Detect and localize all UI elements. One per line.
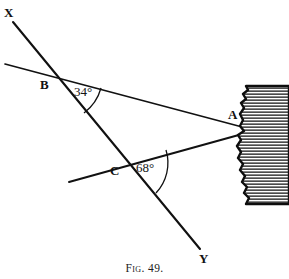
caption-number: 49. bbox=[148, 262, 164, 274]
figure-49: X Y B C A 34° 68° Fig. 49. bbox=[0, 0, 289, 279]
angle-label-34: 34° bbox=[74, 85, 92, 98]
label-point-a: A bbox=[228, 108, 237, 121]
label-point-x: X bbox=[4, 6, 13, 19]
line-c-a bbox=[69, 133, 246, 182]
label-point-b: B bbox=[40, 78, 49, 91]
label-point-c: C bbox=[110, 164, 119, 177]
figure-caption: Fig. 49. bbox=[0, 262, 289, 274]
angle-label-68: 68° bbox=[136, 161, 154, 174]
caption-prefix: Fig. bbox=[125, 262, 144, 274]
geometry-diagram bbox=[0, 0, 289, 279]
line-x-y bbox=[13, 22, 200, 249]
hatched-shoreline bbox=[230, 86, 289, 204]
line-b-a bbox=[5, 64, 246, 128]
